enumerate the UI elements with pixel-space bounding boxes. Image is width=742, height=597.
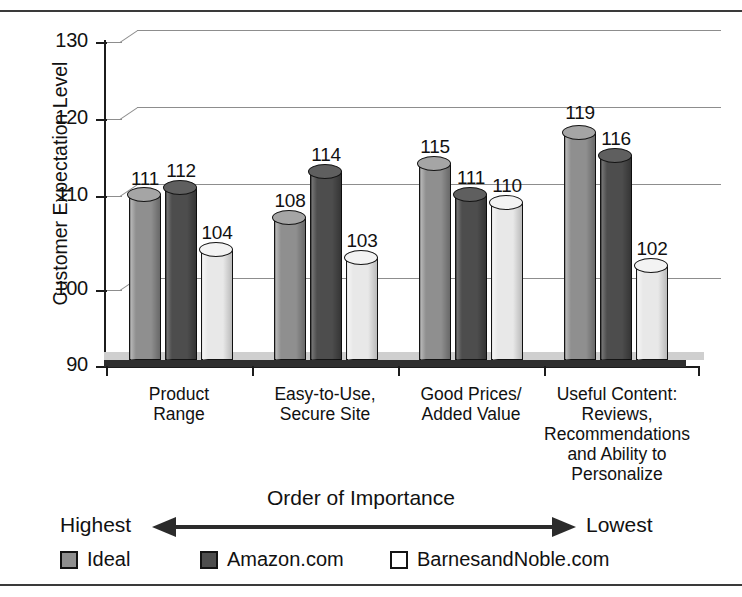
category-line-1: Easy-to-Use,	[250, 384, 400, 404]
bar-bn-easy-to-use[interactable]	[346, 257, 378, 360]
category-line-1: Good Prices/	[396, 384, 546, 404]
y-tick-label-120: 120	[34, 106, 88, 129]
bar-ideal-product-range[interactable]	[129, 194, 161, 360]
category-line-2: Reviews,	[542, 404, 692, 424]
plot-area: Customer Expectation Level 130 120 110	[0, 0, 742, 400]
importance-axis-title: Order of Importance	[231, 486, 491, 510]
bar-amazon-product-range[interactable]	[165, 187, 197, 360]
bar-value-bn-easy-to-use: 103	[334, 230, 390, 252]
y-tick-130	[96, 42, 107, 44]
y-tick-120	[96, 119, 107, 121]
bottom-divider-rule	[0, 584, 742, 586]
importance-lowest-label: Lowest	[586, 513, 653, 537]
category-line-5: Personalize	[542, 464, 692, 484]
chart-figure: Customer Expectation Level 130 120 110	[0, 0, 742, 597]
category-line-4: and Ability to	[542, 444, 692, 464]
bar-value-ideal-good-prices: 115	[407, 136, 463, 158]
bar-value-amazon-useful-content: 116	[588, 128, 644, 150]
bar-value-ideal-useful-content: 119	[552, 102, 608, 124]
x-tick-3	[544, 366, 546, 376]
legend-swatch-amazon	[200, 551, 218, 569]
legend-swatch-barnesandnoble	[390, 551, 408, 569]
bar-value-bn-product-range: 104	[189, 222, 245, 244]
bar-amazon-easy-to-use[interactable]	[310, 171, 342, 360]
bar-value-amazon-product-range: 112	[153, 160, 209, 182]
bar-ideal-easy-to-use[interactable]	[274, 217, 306, 360]
double-arrow-icon	[152, 515, 576, 539]
y-axis-line	[104, 40, 106, 368]
category-line-2: Range	[104, 404, 254, 424]
y-tick-label-110: 110	[34, 183, 88, 206]
legend-label-amazon: Amazon.com	[227, 548, 344, 571]
x-tick-0	[106, 366, 108, 376]
category-line-2: Secure Site	[250, 404, 400, 424]
bar-amazon-good-prices[interactable]	[455, 194, 487, 360]
y-tick-label-90: 90	[34, 353, 88, 376]
bar-value-bn-useful-content: 102	[624, 238, 680, 260]
legend-item-barnesandnoble[interactable]: BarnesandNoble.com	[390, 548, 609, 571]
legend-item-amazon[interactable]: Amazon.com	[200, 548, 344, 571]
category-label-good-prices: Good Prices/ Added Value	[396, 384, 546, 424]
x-tick-1	[252, 366, 254, 376]
bar-value-bn-good-prices: 110	[479, 175, 535, 197]
legend-label-barnesandnoble: BarnesandNoble.com	[417, 548, 609, 571]
bar-ideal-good-prices[interactable]	[419, 163, 451, 360]
bar-value-amazon-easy-to-use: 114	[298, 144, 354, 166]
category-label-useful-content: Useful Content: Reviews, Recommendations…	[542, 384, 692, 484]
y-tick-label-130: 130	[34, 29, 88, 52]
y-tick-label-100: 100	[34, 277, 88, 300]
legend-item-ideal[interactable]: Ideal	[60, 548, 130, 571]
category-label-easy-to-use: Easy-to-Use, Secure Site	[250, 384, 400, 424]
category-line-1: Useful Content:	[542, 384, 692, 404]
bar-bn-good-prices[interactable]	[491, 202, 523, 360]
y-tick-100	[96, 290, 107, 292]
x-tick-2	[398, 366, 400, 376]
chart-legend: Ideal Amazon.com BarnesandNoble.com	[0, 548, 742, 578]
category-line-3: Recommendations	[542, 424, 692, 444]
x-tick-4	[698, 366, 700, 376]
legend-swatch-ideal	[60, 551, 78, 569]
category-label-product-range: Product Range	[104, 384, 254, 424]
bar-bn-product-range[interactable]	[201, 249, 233, 360]
legend-label-ideal: Ideal	[87, 548, 130, 571]
category-line-1: Product	[104, 384, 254, 404]
bar-ideal-useful-content[interactable]	[564, 132, 596, 360]
bar-bn-useful-content[interactable]	[636, 265, 668, 360]
importance-highest-label: Highest	[60, 513, 131, 537]
category-line-2: Added Value	[396, 404, 546, 424]
y-tick-110	[96, 196, 107, 198]
